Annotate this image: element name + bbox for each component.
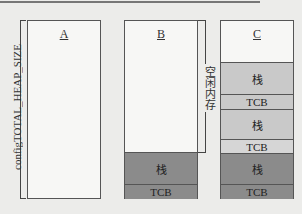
- tcb-block: TCB: [221, 184, 293, 199]
- tcb-block: TCB: [221, 94, 293, 109]
- stack-block: 栈: [221, 153, 293, 184]
- free-memory-label: 空闲内存: [202, 64, 218, 112]
- stack-block: 栈: [221, 109, 293, 139]
- stack-block: 栈: [221, 62, 293, 94]
- box-a-title: A: [28, 27, 100, 42]
- heap-box-b: B 栈 TCB: [124, 20, 198, 199]
- box-c-title: C: [221, 27, 293, 42]
- heap-size-label: configTOTAL_HEAP_SIZE: [11, 32, 23, 182]
- top-border-line: [0, 1, 260, 3]
- stack-block: 栈: [125, 152, 197, 184]
- tcb-block: TCB: [125, 184, 197, 199]
- tcb-block: TCB: [221, 139, 293, 153]
- heap-box-c: C 栈 TCB 栈 TCB 栈 TCB: [220, 20, 294, 199]
- heap-box-a: A: [27, 20, 101, 199]
- box-b-title: B: [125, 27, 197, 42]
